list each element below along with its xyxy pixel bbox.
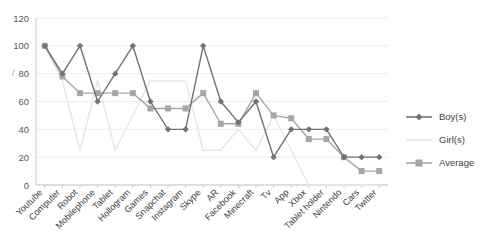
y-axis-tick-label: 100 xyxy=(13,40,29,51)
line-chart: 020406080100120/YoutubeComputerRobotMobi… xyxy=(0,0,500,247)
gridlines xyxy=(36,18,388,185)
data-point xyxy=(376,154,382,160)
y-axis-tick-label: 40 xyxy=(18,124,29,135)
data-point xyxy=(200,43,206,49)
y-axis-tick-label: 60 xyxy=(18,96,29,107)
y-axis-tick-label: 20 xyxy=(18,152,29,163)
legend-marker xyxy=(416,160,423,167)
series-line xyxy=(45,46,379,171)
data-point xyxy=(323,136,329,142)
x-axis-category-label: Tv xyxy=(259,187,273,201)
y-axis-tick-label: 80 xyxy=(18,68,29,79)
data-point xyxy=(182,126,188,132)
legend-item-girls[interactable]: Girl(s) xyxy=(406,134,465,145)
y-axis-tick-label: 0 xyxy=(24,180,29,191)
data-point xyxy=(77,90,83,96)
data-point xyxy=(306,126,312,132)
data-point xyxy=(183,105,189,111)
legend-label: Boy(s) xyxy=(439,111,466,122)
legend-item-average[interactable]: Average xyxy=(406,157,474,168)
data-point xyxy=(147,105,153,111)
legend-label: Girl(s) xyxy=(439,134,465,145)
series-girls xyxy=(45,46,379,185)
data-point xyxy=(358,154,364,160)
data-point xyxy=(288,115,294,121)
data-point xyxy=(130,90,136,96)
data-point xyxy=(271,112,277,118)
data-point xyxy=(359,168,365,174)
legend-label: Average xyxy=(439,157,474,168)
legend-marker xyxy=(416,114,423,121)
series-average xyxy=(42,43,382,174)
data-point xyxy=(376,168,382,174)
y-axis-tick-label: 120 xyxy=(13,13,29,24)
series-line xyxy=(45,46,379,185)
data-point xyxy=(165,105,171,111)
data-point xyxy=(112,90,118,96)
data-point xyxy=(306,136,312,142)
axis-stray-mark: / xyxy=(12,68,15,78)
data-point xyxy=(200,90,206,96)
data-point xyxy=(218,121,224,127)
chart-canvas: 020406080100120/YoutubeComputerRobotMobi… xyxy=(0,0,500,247)
data-point xyxy=(253,90,259,96)
legend-item-boys[interactable]: Boy(s) xyxy=(406,111,466,122)
